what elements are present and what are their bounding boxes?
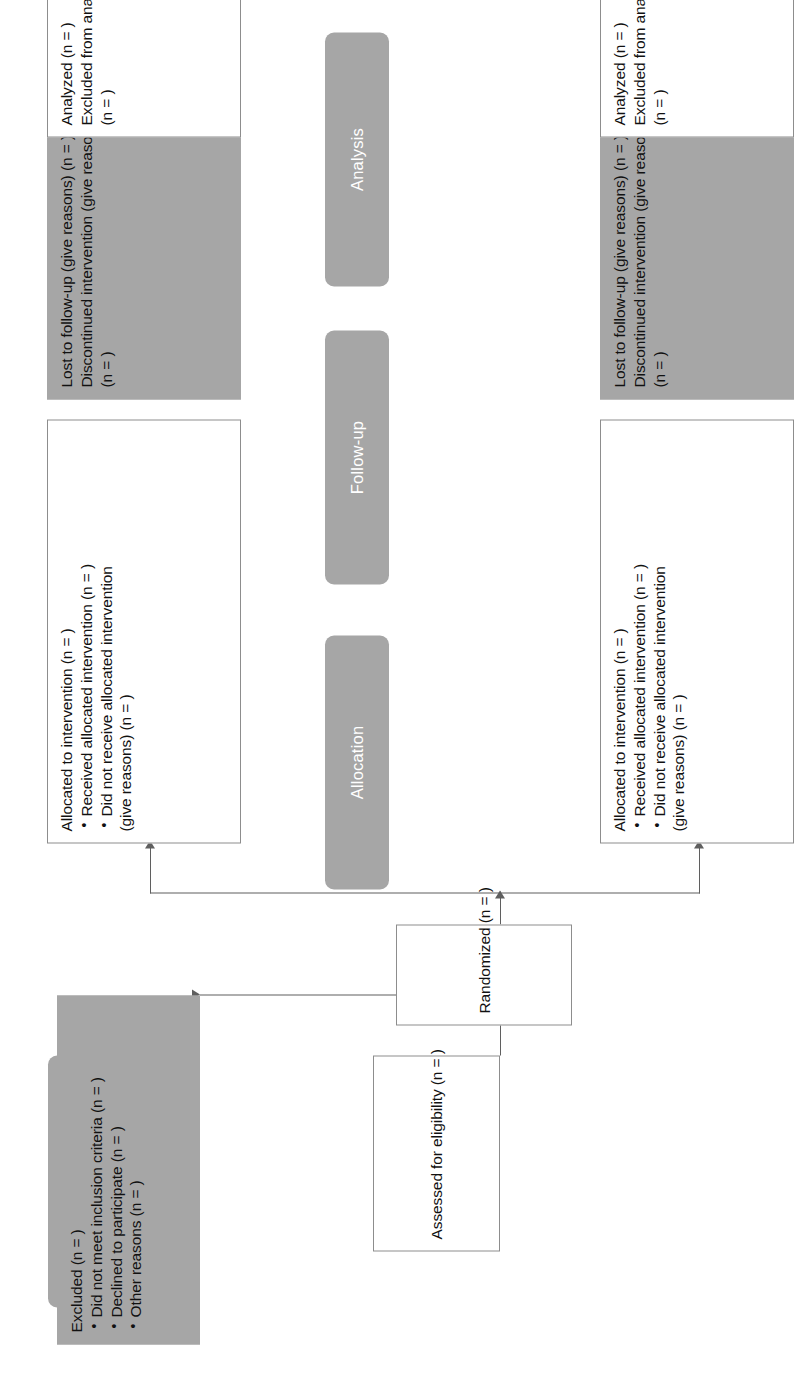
box-analysis-bottom: Analyzed (n = ) Excluded from analysis (…	[600, 0, 794, 137]
excluded-bullet-1: Did not meet inclusion criteria (n = )	[87, 1006, 107, 1317]
analysis-bottom-line-1: Analyzed (n = )	[610, 0, 630, 125]
stage-label-followup: Follow-up	[325, 330, 389, 584]
box-excluded: Excluded (n = ) Did not meet inclusion c…	[57, 995, 200, 1344]
allocated-bottom-bullet-list: Received allocated intervention (n = ) D…	[630, 430, 670, 831]
allocated-top-bullet-2-line-b: (give reasons) (n = )	[116, 430, 136, 831]
stage-label-allocation-text: Allocation	[348, 725, 367, 799]
analysis-top-line-3: (n = )	[97, 0, 117, 125]
randomized-line-1: Randomized (n = )	[475, 887, 495, 1013]
box-assessed-for-eligibility: Assessed for eligibility (n = )	[373, 1055, 500, 1251]
excluded-heading: Excluded (n = )	[67, 1006, 87, 1332]
stage-label-followup-text: Follow-up	[348, 420, 367, 493]
allocated-top-bullet-1: Received allocated intervention (n = )	[77, 430, 97, 816]
allocated-bottom-bullet-2-line-b: (give reasons) (n = )	[669, 430, 689, 831]
allocated-bottom-bullet-2: Did not receive allocated intervention	[650, 430, 670, 816]
allocated-bottom-heading: Allocated to intervention (n = )	[610, 430, 630, 831]
stage-label-allocation: Allocation	[325, 635, 389, 889]
excluded-bullet-3: Other reasons (n = )	[126, 1006, 146, 1317]
stage-label-analysis-text: Analysis	[348, 127, 367, 190]
box-allocated-top: Allocated to intervention (n = ) Receive…	[47, 419, 241, 843]
box-allocated-bottom: Allocated to intervention (n = ) Receive…	[600, 419, 794, 843]
connector-allocation-bus	[150, 892, 501, 893]
analysis-bottom-line-2: Excluded from analysis (give reasons)	[630, 0, 650, 125]
stage-label-analysis: Analysis	[325, 32, 389, 286]
analysis-top-line-1: Analyzed (n = )	[57, 0, 77, 125]
assessed-line-1: Assessed for eligibility (n = )	[427, 1049, 447, 1239]
allocated-bottom-bullet-1: Received allocated intervention (n = )	[630, 430, 650, 816]
analysis-bottom-line-3: (n = )	[650, 0, 670, 125]
box-analysis-top: Analyzed (n = ) Excluded from analysis (…	[47, 0, 241, 137]
analysis-top-line-2: Excluded from analysis (give reasons)	[77, 0, 97, 125]
allocated-bottom-bullet-2-line-a: Did not receive allocated intervention	[650, 430, 670, 816]
box-randomized: Randomized (n = )	[396, 924, 572, 1025]
excluded-bullet-list: Did not meet inclusion criteria (n = ) D…	[87, 1006, 146, 1332]
allocated-top-heading: Allocated to intervention (n = )	[57, 430, 77, 831]
allocated-top-bullet-2: Did not receive allocated intervention	[97, 430, 117, 816]
allocated-top-bullet-2-line-a: Did not receive allocated intervention	[97, 430, 117, 816]
connector-allocation-bus-lower	[500, 892, 700, 893]
connector-bus-to-allocated-bottom	[699, 843, 700, 893]
excluded-bullet-2: Declined to participate (n = )	[107, 1006, 127, 1317]
connector-bus-to-allocated-top	[150, 843, 151, 893]
allocated-top-bullet-list: Received allocated intervention (n = ) D…	[77, 430, 117, 831]
